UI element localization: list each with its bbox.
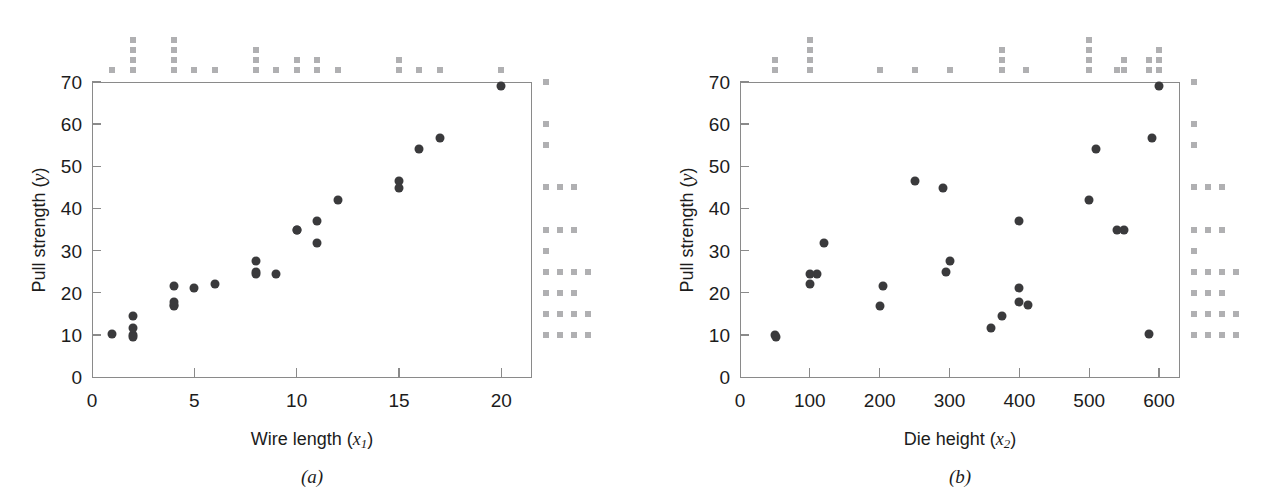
marginal-dot [1219,311,1225,317]
data-point [1023,301,1032,310]
marginal-dot [1191,121,1197,127]
data-point [987,323,996,332]
marginal-dot [416,67,422,73]
marginal-dot [999,47,1005,53]
x-tick-label-b-0: 0 [735,391,746,410]
marginal-dot [1219,184,1225,190]
x-axis-title-a: Wire length (x1) [251,430,374,451]
y-tick-a-60 [92,123,101,124]
data-point [1092,144,1101,153]
data-point [128,332,137,341]
data-point [435,134,444,143]
marginal-dot [571,184,577,190]
marginal-dot [130,37,136,43]
x-tick-label-a-10: 10 [286,391,307,410]
y-tick-label-a-10: 10 [36,325,82,344]
data-point [292,225,301,234]
marginal-dot [543,248,549,254]
marginal-dot [1156,47,1162,53]
data-point [272,270,281,279]
x-axis-title-b: Die height (x2) [904,430,1017,451]
x-axis-subscript-a: 1 [361,436,367,451]
marginal-dot [294,67,300,73]
marginal-dot [585,269,591,275]
marginal-dot [543,311,549,317]
x-tick-b-600 [1158,368,1159,377]
marginal-dot [396,57,402,63]
marginal-dot [1219,290,1225,296]
marginal-dot [557,269,563,275]
marginal-dot [1191,79,1197,85]
marginal-dot [571,332,577,338]
y-tick-a-10 [92,334,101,335]
x-axis-symbol-b: x [996,429,1004,449]
data-point [1015,283,1024,292]
y-axis-title-text-b: Pull strength [677,192,697,292]
marginal-dot [1191,290,1197,296]
x-tick-label-a-5: 5 [189,391,200,410]
marginal-dot [171,57,177,63]
marginal-dot [585,332,591,338]
marginal-dot [1086,57,1092,63]
x-tick-label-b-100: 100 [794,391,826,410]
y-tick-label-a-60: 60 [36,115,82,134]
data-point [875,301,884,310]
x-tick-a-5 [194,368,195,377]
y-tick-b-30 [740,250,749,251]
marginal-dot [543,121,549,127]
data-point [819,239,828,248]
data-point [251,257,260,266]
panel-b: 0102030405060700100200300400500600 Die h… [636,0,1271,495]
marginal-dot [314,67,320,73]
marginal-dot [557,311,563,317]
panel-caption-a: (a) [301,466,323,488]
x-tick-b-500 [1089,368,1090,377]
marginal-dot [314,57,320,63]
data-point [333,196,342,205]
y-axis-title-text-a: Pull strength [29,192,49,292]
data-point [938,183,947,192]
marginal-dot [807,67,813,73]
data-point [169,297,178,306]
data-point [805,279,814,288]
marginal-dot [557,332,563,338]
y-tick-a-30 [92,250,101,251]
marginal-dot [253,67,259,73]
data-point [1015,297,1024,306]
marginal-dot [273,67,279,73]
marginal-dot [912,67,918,73]
y-tick-label-b-10: 10 [684,325,730,344]
marginal-dot [1191,311,1197,317]
marginal-dot [1233,269,1239,275]
marginal-dot [571,269,577,275]
x-tick-label-b-300: 300 [934,391,966,410]
x-axis-subscript-b: 2 [1004,436,1010,451]
marginal-dot [543,142,549,148]
x-tick-label-a-15: 15 [388,391,409,410]
data-point [1015,217,1024,226]
marginal-dot [999,67,1005,73]
x-axis-line-b [740,377,1180,378]
data-point [1113,225,1122,234]
x-tick-label-a-20: 20 [491,391,512,410]
marginal-dot [1205,269,1211,275]
x-tick-label-b-600: 600 [1143,391,1175,410]
marginal-dot [1086,37,1092,43]
marginal-dot [130,67,136,73]
y-tick-label-b-60: 60 [684,115,730,134]
marginal-dot [543,269,549,275]
marginal-dot [807,37,813,43]
x-axis-symbol-a: x [353,429,361,449]
x-tick-a-10 [296,368,297,377]
marginal-dot [947,67,953,73]
y-axis-symbol-b: y [677,173,697,181]
marginal-dot [585,311,591,317]
data-point [1085,196,1094,205]
marginal-dot [1191,269,1197,275]
marginal-dot [1191,248,1197,254]
y-tick-a-20 [92,292,101,293]
x-tick-a-20 [501,368,502,377]
y-tick-a-40 [92,208,101,209]
marginal-dot [109,67,115,73]
marginal-dot [1205,184,1211,190]
